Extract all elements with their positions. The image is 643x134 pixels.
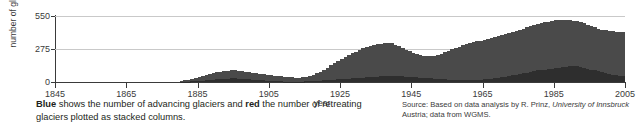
caption-bold-blue: Blue	[36, 99, 56, 109]
bar-stack	[621, 32, 625, 82]
chart-caption: Blue shows the number of advancing glaci…	[36, 98, 386, 123]
source-attribution: Source: Based on data analysis by R. Pri…	[402, 100, 640, 121]
x-tick-label: 1965	[463, 89, 503, 99]
x-tick-label: 1945	[391, 89, 431, 99]
y-tick-label: 550	[22, 12, 50, 21]
x-tick-mark	[198, 83, 199, 88]
x-tick-mark	[625, 83, 626, 88]
x-tick-mark	[269, 83, 270, 88]
x-tick-label: 2005	[605, 89, 643, 99]
bar-segment-retreating	[621, 32, 625, 76]
x-tick-mark	[55, 83, 56, 88]
x-tick-mark	[483, 83, 484, 88]
y-tick-label: 0	[22, 78, 50, 87]
plot-area	[55, 16, 625, 82]
source-prefix: Source: Based on data analysis by R. Pri…	[402, 100, 552, 109]
y-tick-mark	[51, 49, 55, 50]
y-axis-title: number of glaciers	[9, 0, 18, 52]
x-tick-mark	[554, 83, 555, 88]
y-tick-mark	[51, 16, 55, 17]
bar-series-container	[55, 16, 625, 82]
glacier-chart-figure: number of glaciers 0275550 1845186518851…	[0, 0, 643, 134]
source-institution: University of Innsbruck	[552, 100, 629, 109]
x-tick-mark	[411, 83, 412, 88]
bar-segment-advancing	[621, 76, 625, 82]
source-suffix: Austria; data from WGMS.	[402, 110, 491, 119]
x-tick-mark	[340, 83, 341, 88]
y-tick-label: 275	[22, 45, 50, 54]
caption-text-1: shows the number of advancing glaciers a…	[56, 99, 245, 109]
caption-bold-red: red	[245, 99, 259, 109]
x-tick-mark	[126, 83, 127, 88]
x-tick-label: 1985	[534, 89, 574, 99]
